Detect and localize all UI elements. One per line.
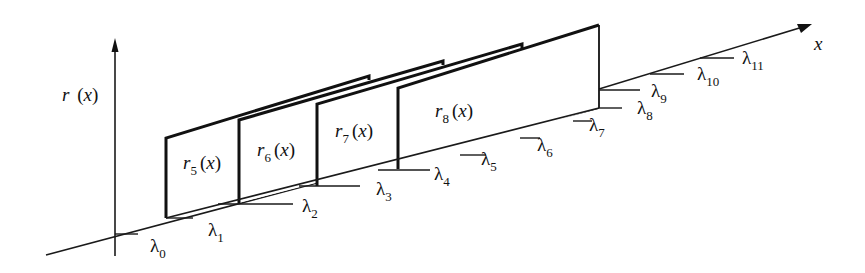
lambda-5: λ5 bbox=[481, 148, 497, 174]
lambda-7: λ7 bbox=[589, 114, 605, 140]
y-axis-arrow-icon bbox=[112, 38, 119, 52]
lambda-2: λ2 bbox=[302, 195, 318, 221]
lambda-9: λ9 bbox=[651, 80, 667, 106]
y-axis-label: r (x) bbox=[62, 84, 98, 106]
lambda-6: λ6 bbox=[537, 134, 553, 160]
lambda-4: λ4 bbox=[434, 163, 450, 189]
y-axis bbox=[112, 38, 119, 256]
x-axis-arrow-icon bbox=[797, 24, 812, 33]
piecewise-function-diagram: r (x) x r5(x) r6(x) r7(x) r8(x) bbox=[0, 0, 865, 273]
lambda-0: λ0 bbox=[150, 235, 166, 261]
panel-r8 bbox=[398, 25, 599, 169]
lambda-3: λ3 bbox=[376, 178, 392, 204]
lambda-11: λ11 bbox=[742, 47, 764, 73]
lambda-1: λ1 bbox=[208, 219, 224, 245]
lambda-10: λ10 bbox=[697, 63, 719, 89]
x-axis-label: x bbox=[813, 33, 823, 54]
